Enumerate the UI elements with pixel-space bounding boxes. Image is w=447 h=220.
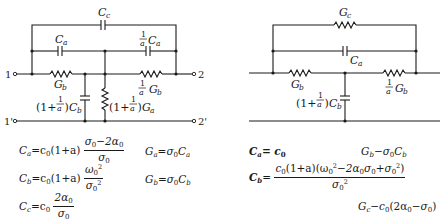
svg-text:c: c — [106, 11, 111, 20]
fraction: 2α0 σ0 — [53, 192, 73, 220]
ca-label: C a — [55, 33, 67, 47]
right-gb-label: G b — [291, 78, 304, 92]
equation-cb-right: Cb= c0(1+a)(ω02−2α0σ0+σ02) σ02 — [249, 163, 405, 192]
right-gc-label: G c — [339, 6, 352, 20]
equation-cb-left: Cb=c0(1+a) ω02 σ02 — [19, 164, 103, 193]
terminal-2-prime-label: 2' — [198, 116, 207, 127]
svg-text:(1+: (1+ — [36, 101, 57, 114]
svg-text:a: a — [150, 106, 154, 115]
svg-text:(1+: (1+ — [296, 97, 317, 110]
ga-shunt-label: (1+ 1 a ) G a — [109, 95, 154, 115]
gb-over-a-label: 1 a G b — [139, 79, 163, 97]
fraction: c0(1+a)(ω02−2α0σ0+σ02) σ02 — [274, 163, 405, 192]
fraction: ω02 σ02 — [84, 164, 103, 193]
svg-text:1: 1 — [140, 79, 145, 88]
fraction: σ0−2α0 σ0 — [84, 136, 125, 165]
cc-label: C c — [98, 6, 111, 20]
terminal-2 — [192, 72, 195, 75]
svg-text:c: c — [347, 11, 352, 20]
right-ca-label: C a — [350, 54, 362, 68]
gc-resistor — [334, 22, 356, 28]
gb-over-a-resistor — [140, 71, 162, 77]
svg-text:a: a — [63, 38, 67, 47]
equation-ca-left: Ca=c0(1+a) σ0−2α0 σ0 — [19, 136, 124, 165]
ga-resistor — [102, 88, 108, 110]
svg-text:b: b — [299, 83, 304, 92]
terminal-1-prime-label: 1' — [4, 116, 13, 127]
svg-text:b: b — [157, 88, 162, 97]
svg-text:a: a — [57, 104, 62, 113]
svg-text:1: 1 — [318, 91, 323, 100]
svg-text:a: a — [140, 39, 145, 48]
svg-text:a: a — [156, 39, 160, 48]
right-gb-resistor — [289, 70, 311, 76]
gb-resistor — [50, 71, 72, 77]
equation-cc-left: Cc=c0 2α0 σ0 — [19, 192, 74, 220]
ca-over-a-label: 1 a C a — [140, 30, 161, 48]
terminal-1 — [13, 72, 16, 75]
terminal-2-prime — [192, 119, 195, 122]
terminal-1-label: 1 — [5, 69, 11, 80]
svg-text:a: a — [317, 100, 322, 109]
svg-text:b: b — [77, 106, 82, 115]
terminal-1-prime — [13, 119, 16, 122]
svg-text:b: b — [62, 83, 67, 92]
right-top-wire — [273, 25, 334, 73]
left-top-wire — [32, 25, 101, 74]
right-gb-over-a-label: 1 a G b — [386, 78, 409, 96]
svg-text:1: 1 — [387, 78, 392, 87]
svg-text:1: 1 — [58, 95, 63, 104]
svg-text:a: a — [130, 104, 135, 113]
svg-text:1: 1 — [141, 30, 146, 39]
svg-text:1: 1 — [131, 95, 136, 104]
gb-label: G b — [54, 78, 67, 92]
svg-text:b: b — [403, 87, 408, 96]
cb-shunt-label: (1+ 1 a ) C b — [36, 95, 82, 115]
svg-text:a: a — [386, 87, 391, 96]
equation-ga-left: Ga=σ0Ca — [145, 146, 190, 159]
svg-text:a: a — [358, 59, 362, 68]
svg-text:(1+: (1+ — [109, 101, 130, 114]
right-cb-shunt-label: (1+ 1 a ) C b — [296, 91, 342, 111]
terminal-2-label: 2 — [198, 69, 204, 80]
right-gb-over-a-resistor — [383, 70, 405, 76]
svg-text:a: a — [139, 88, 144, 97]
right-top-wire — [356, 25, 416, 73]
svg-text:b: b — [337, 102, 342, 111]
equation-gc-right: Gc−c0(2α0−σ0) — [358, 201, 436, 214]
equation-ca-right: Ca= c0 — [249, 146, 286, 158]
equation-gb-left: Gb=σ0Cb — [145, 174, 191, 187]
equation-gb-right: Gb−σ0Cb — [361, 146, 407, 159]
